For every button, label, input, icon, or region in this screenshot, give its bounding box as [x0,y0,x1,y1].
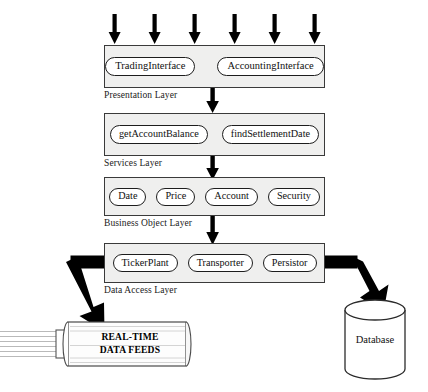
component-transporter[interactable]: Transporter [188,254,253,272]
component-price[interactable]: Price [156,188,195,206]
layer-business-object-components: Date Price Account Security [105,188,324,206]
arrow-data-access-to-feeds [66,256,105,332]
feed-hose-lines [0,332,56,357]
architecture-diagram: TradingInterface AccountingInterface Pre… [0,0,428,392]
feeds-label-line2: DATA FEEDS [78,344,182,356]
layer-data-access-components: TickerPlant Transporter Persistor [105,254,324,272]
incoming-arrow-2 [149,14,161,44]
layer-label-data-access: Data Access Layer [104,285,177,295]
component-tradinginterface[interactable]: TradingInterface [105,57,195,76]
component-tickerplant[interactable]: TickerPlant [113,254,178,272]
layer-business-object[interactable]: Date Price Account Security [104,177,325,216]
component-account[interactable]: Account [205,188,258,206]
incoming-arrow-3 [189,14,201,44]
component-date[interactable]: Date [109,188,146,206]
arrow-data-access-to-database [325,256,389,313]
component-findsettlementdate[interactable]: findSettlementDate [222,125,319,144]
feeds-label-line1: REAL-TIME [78,331,182,343]
component-persistor[interactable]: Persistor [263,254,317,272]
layer-data-access[interactable]: TickerPlant Transporter Persistor [104,243,325,283]
layer-connector-arrows [206,88,219,245]
incoming-request-arrows [109,14,321,44]
layer-label-business-object: Business Object Layer [104,218,192,228]
layer-presentation[interactable]: TradingInterface AccountingInterface [104,45,325,88]
connector-business-to-data-access [206,216,219,245]
component-getaccountbalance[interactable]: getAccountBalance [110,125,208,144]
incoming-arrow-1 [109,14,121,44]
layer-services[interactable]: getAccountBalance findSettlementDate [104,113,325,156]
connector-presentation-to-services [206,88,219,113]
layer-presentation-components: TradingInterface AccountingInterface [105,57,324,76]
component-accountinginterface[interactable]: AccountingInterface [217,57,323,76]
layer-label-services: Services Layer [104,158,162,168]
layer-label-presentation: Presentation Layer [104,90,177,100]
incoming-arrow-5 [269,14,281,44]
incoming-arrow-4 [229,14,241,44]
component-security[interactable]: Security [268,188,320,206]
database-label: Database [345,334,405,345]
layer-services-components: getAccountBalance findSettlementDate [105,125,324,144]
incoming-arrow-6 [309,14,321,44]
